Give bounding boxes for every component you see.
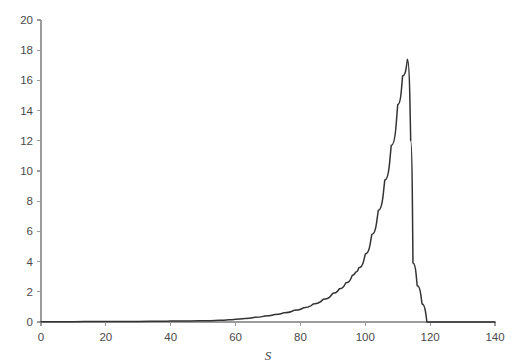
y-tick-label: 16 <box>20 74 33 86</box>
chart-screenshot: 02468101214161820 020406080100120140 S <box>0 0 519 364</box>
y-axis-group: 02468101214161820 <box>20 14 41 328</box>
data-curve-distribution <box>41 59 495 322</box>
chart-figure: 02468101214161820 020406080100120140 S <box>0 0 519 364</box>
y-axis-tick-labels: 02468101214161820 <box>20 14 33 328</box>
y-axis-ticks <box>37 20 41 322</box>
x-axis-title: S <box>265 348 272 363</box>
x-tick-label: 60 <box>229 331 242 343</box>
x-tick-label: 20 <box>99 331 112 343</box>
data-series-group <box>41 59 495 322</box>
x-tick-label: 100 <box>356 331 375 343</box>
x-axis-group: 020406080100120140 <box>38 322 505 343</box>
y-tick-label: 18 <box>20 44 33 56</box>
x-tick-label: 40 <box>164 331 177 343</box>
x-axis-tick-labels: 020406080100120140 <box>38 331 505 343</box>
y-tick-label: 10 <box>20 165 33 177</box>
y-tick-label: 12 <box>20 135 33 147</box>
y-tick-label: 4 <box>27 256 34 268</box>
y-tick-label: 14 <box>20 105 33 117</box>
y-tick-label: 0 <box>27 316 33 328</box>
y-tick-label: 6 <box>27 225 33 237</box>
x-tick-label: 0 <box>38 331 44 343</box>
x-tick-label: 80 <box>294 331 307 343</box>
y-tick-label: 2 <box>27 286 33 298</box>
y-tick-label: 8 <box>27 195 33 207</box>
x-tick-label: 140 <box>485 331 504 343</box>
chart-canvas: 02468101214161820 020406080100120140 S <box>0 0 519 364</box>
y-tick-label: 20 <box>20 14 33 26</box>
x-tick-label: 120 <box>421 331 440 343</box>
